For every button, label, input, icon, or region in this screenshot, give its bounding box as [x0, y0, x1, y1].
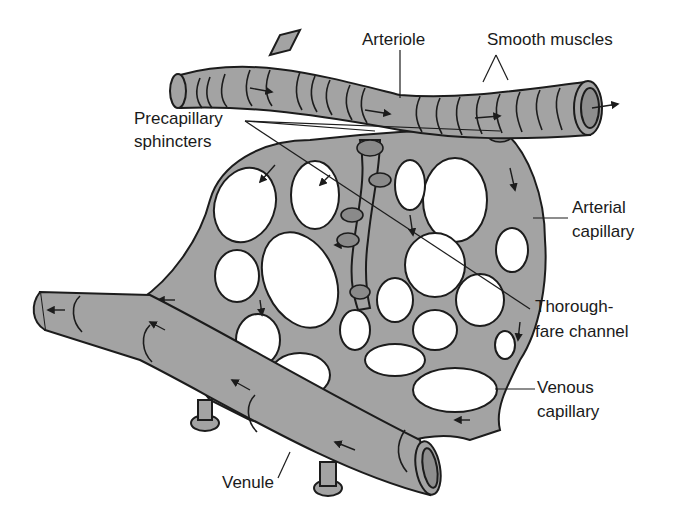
precapillary-sphincter: [357, 140, 383, 156]
label-venule: Venule: [222, 473, 274, 492]
label-precapillary-line2: sphincters: [134, 132, 211, 151]
precapillary-sphincter: [337, 233, 359, 247]
label-venous-capillary-line1: Venous: [537, 378, 594, 397]
precapillary-sphincter: [341, 208, 363, 222]
precapillary-sphincter: [369, 173, 391, 187]
label-arteriole: Arteriole: [362, 30, 425, 49]
label-thoroughfare-line2: fare channel: [535, 322, 629, 341]
label-arterial-capillary-line2: capillary: [572, 222, 635, 241]
label-arterial-capillary-line1: Arterial: [572, 198, 626, 217]
label-smooth-muscles: Smooth muscles: [487, 30, 613, 49]
label-precapillary-line1: Precapillary: [134, 109, 223, 128]
capillary-bed-diagram: Arteriole Smooth muscles Precapillary sp…: [0, 0, 681, 516]
precapillary-sphincter: [350, 285, 370, 299]
label-venous-capillary-line2: capillary: [537, 402, 600, 421]
label-thoroughfare-line1: Thorough-: [535, 297, 613, 316]
